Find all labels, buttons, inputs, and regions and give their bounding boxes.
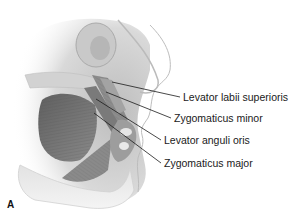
buccinator-muscle <box>38 94 97 162</box>
label-levator-anguli-oris: Levator anguli oris <box>164 135 250 146</box>
facial-muscle-illustration <box>0 0 298 218</box>
label-zygomaticus-minor: Zygomaticus minor <box>174 113 263 124</box>
panel-letter: A <box>7 199 14 210</box>
label-levator-labii-superioris: Levator labii superioris <box>183 92 288 103</box>
anatomy-figure: Levator labii superioris Zygomaticus min… <box>0 0 298 218</box>
label-zygomaticus-major: Zygomaticus major <box>164 158 253 169</box>
